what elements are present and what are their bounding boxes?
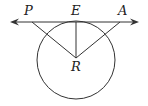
label-p: P — [23, 3, 33, 18]
label-e: E — [70, 3, 81, 18]
label-a: A — [117, 3, 127, 18]
label-r: R — [70, 59, 81, 74]
geometry-diagram: P E A R — [0, 0, 148, 106]
